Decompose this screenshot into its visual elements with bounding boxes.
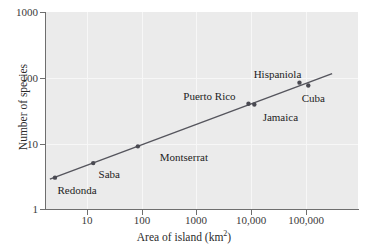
x-axis-tick-label: 100 xyxy=(134,214,151,226)
y-axis-tick xyxy=(40,209,45,210)
gridline-horizontal xyxy=(46,78,358,79)
y-axis-tick xyxy=(40,12,45,13)
data-point-label: Cuba xyxy=(302,92,325,104)
data-point-label: Saba xyxy=(99,168,120,180)
x-axis-tick-label: 10,000 xyxy=(236,214,266,226)
data-point-label: Puerto Rico xyxy=(183,90,235,102)
gridline-vertical xyxy=(142,12,143,209)
gridline-horizontal xyxy=(46,144,358,145)
y-axis-line xyxy=(45,12,46,210)
x-axis-line xyxy=(45,209,359,210)
gridline-vertical xyxy=(87,12,88,209)
gridline-vertical xyxy=(306,12,307,209)
species-area-chart: 1000 100 10 1 10 100 1000 10,000 100,000… xyxy=(0,0,368,248)
data-point-label: Montserrat xyxy=(160,151,208,163)
x-axis-tick-label: 10 xyxy=(82,214,93,226)
x-axis-tick-label: 100,000 xyxy=(288,214,324,226)
data-point-label: Redonda xyxy=(57,184,96,196)
gridline-vertical xyxy=(251,12,252,209)
y-axis-tick-label: 1000 xyxy=(0,6,38,18)
y-axis-tick-label: 1 xyxy=(0,203,38,215)
x-axis-title-text: Area of island (km xyxy=(137,231,224,243)
data-point-label: Hispaniola xyxy=(254,68,302,80)
x-axis-tick-label: 1000 xyxy=(185,214,207,226)
y-axis-tick xyxy=(40,78,45,79)
gridline-vertical xyxy=(196,12,197,209)
x-axis-title-tail: ) xyxy=(227,231,231,243)
y-axis-title: Number of species xyxy=(17,37,29,177)
x-axis-title: Area of island (km2) xyxy=(0,229,368,243)
y-axis-tick xyxy=(40,144,45,145)
plot-area xyxy=(46,12,358,209)
data-point-label: Jamaica xyxy=(263,111,298,123)
